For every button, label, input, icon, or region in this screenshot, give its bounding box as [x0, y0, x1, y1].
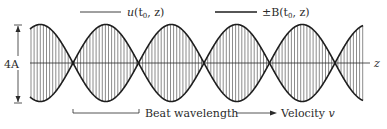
arrow-right-icon	[270, 111, 277, 116]
arrow-down-icon	[16, 96, 21, 102]
velocity-label: Velocity v	[280, 107, 335, 120]
amplitude-label: 4A	[4, 58, 20, 71]
legend-label-u: u(t0, z)	[127, 6, 164, 20]
legend-label-envelope: ±B(t0, z)	[262, 6, 310, 20]
beat-wavelength-label: Beat wavelength	[145, 107, 238, 120]
z-axis-label: z	[373, 57, 380, 70]
arrow-up-icon	[16, 26, 21, 32]
beat-wave-figure: u(t0, z) ±B(t0, z) 4A z Beat wavelength …	[0, 0, 387, 129]
